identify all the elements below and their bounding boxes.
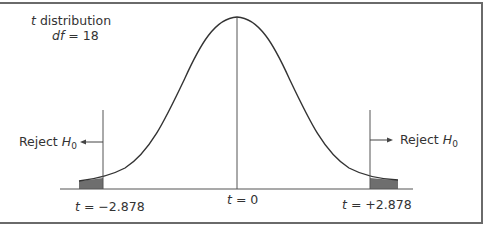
reject-h0-right-label: Reject H0 xyxy=(400,134,458,149)
reject-text: Reject xyxy=(19,134,62,149)
t-distribution-curve xyxy=(79,17,398,181)
reject-h0-left-label: Reject H0 xyxy=(19,136,77,151)
h-subscript: 0 xyxy=(452,139,458,149)
df-variable: df xyxy=(52,28,64,43)
distribution-title: t distribution xyxy=(31,15,111,28)
h-symbol: H xyxy=(443,132,452,147)
right-critical-value-label: t = +2.878 xyxy=(342,199,412,212)
reject-text: Reject xyxy=(400,132,443,147)
right-arrow-icon xyxy=(387,138,393,143)
center-value-label: t = 0 xyxy=(227,194,258,207)
left-arrow-icon xyxy=(80,140,86,145)
h-subscript: 0 xyxy=(71,141,77,151)
df-value: = 18 xyxy=(64,28,98,43)
left-critical-value: = −2.878 xyxy=(80,199,145,214)
center-value: = 0 xyxy=(232,192,258,207)
h-symbol: H xyxy=(62,134,71,149)
left-critical-value-label: t = −2.878 xyxy=(75,201,145,214)
right-critical-value: = +2.878 xyxy=(347,197,412,212)
degrees-of-freedom: df = 18 xyxy=(52,30,99,43)
distribution-label: distribution xyxy=(36,13,111,28)
